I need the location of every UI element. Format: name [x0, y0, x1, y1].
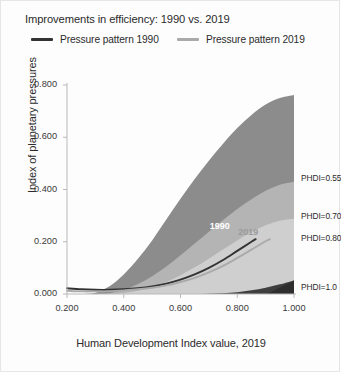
x-tick-label: 0.200 [44, 303, 90, 313]
x-tick-label: 0.600 [158, 303, 204, 313]
y-tick-label: 0.200 [17, 236, 57, 246]
y-tick-label: 0.400 [17, 184, 57, 194]
series-tag-2019: 2019 [238, 227, 258, 237]
band-label-phdi-0-70: PHDI=0.70 [301, 211, 341, 221]
x-tick-label: 0.800 [214, 303, 260, 313]
y-axis-title: Index of planetary pressures [26, 18, 38, 232]
y-tick-label: 0.000 [17, 288, 57, 298]
y-tick-label: 0.800 [17, 79, 57, 89]
series-tag-1990: 1990 [210, 221, 230, 231]
band-label-phdi-0-55: PHDI=0.55 [301, 173, 341, 183]
x-axis-title: Human Development Index value, 2019 [1, 337, 341, 349]
y-tick-label: 0.600 [17, 131, 57, 141]
band-label-phdi-0-80: PHDI=0.80 [301, 233, 341, 243]
x-tick-label: 0.400 [101, 303, 147, 313]
plot-area: Index of planetary pressures Human Devel… [1, 1, 341, 372]
x-tick-label: 1.000 [271, 303, 317, 313]
band-label-phdi-1-0: PHDI=1.0 [301, 282, 337, 292]
